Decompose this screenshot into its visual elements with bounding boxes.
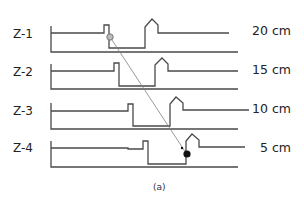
start-marker-icon [107, 34, 113, 40]
trend-line [110, 37, 186, 153]
end-marker-icon [183, 150, 190, 157]
distance-label-z2: 15 cm [252, 62, 291, 77]
distance-label-z3: 10 cm [252, 101, 291, 116]
distance-label-z4: 5 cm [260, 140, 291, 155]
distance-label-z1: 20 cm [252, 23, 291, 38]
row-label-z3: Z-3 [13, 104, 33, 118]
waveform-z2 [51, 58, 238, 89]
row-label-z2: Z-2 [13, 65, 33, 79]
waveform-z3 [51, 97, 249, 129]
figure-caption: (a) [153, 182, 166, 192]
waveform-z1 [51, 19, 238, 52]
waveform-z4 [51, 134, 245, 167]
row-label-z1: Z-1 [13, 27, 33, 41]
arrow-tip-icon [181, 147, 183, 149]
row-label-z4: Z-4 [13, 141, 33, 155]
